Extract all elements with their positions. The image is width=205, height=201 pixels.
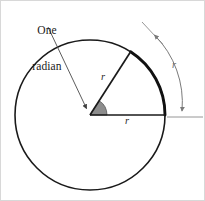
arc-length-measure-arrow (155, 35, 183, 111)
one-radian-label: One radian (19, 2, 75, 96)
upper-radius-line (90, 52, 131, 115)
subtended-arc (131, 52, 165, 115)
one-radian-label-line2: radian (19, 61, 75, 73)
horizontal-radius-label: r (125, 116, 129, 127)
one-radian-label-line1: One (19, 25, 75, 37)
radian-diagram-figure: One radian r r r (0, 0, 205, 201)
arc-length-label: r (172, 60, 176, 71)
upper-radius-label: r (101, 72, 105, 83)
